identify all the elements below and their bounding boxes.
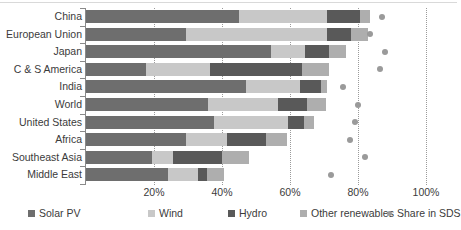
stacked-bar <box>86 116 314 129</box>
bar-segment-solar-pv <box>86 116 214 129</box>
bar-segment-other-renewables <box>207 168 224 181</box>
bar-segment-other-renewables <box>304 116 314 129</box>
bar-segment-wind <box>208 98 278 111</box>
bar-segment-solar-pv <box>86 45 271 58</box>
bar-segment-solar-pv <box>86 80 246 93</box>
stacked-bar <box>86 28 368 41</box>
bar-row <box>86 43 426 61</box>
stacked-bar <box>86 133 287 146</box>
legend-item-solar-pv[interactable]: Solar PV <box>28 207 80 219</box>
legend-swatch-icon <box>28 210 35 217</box>
bar-segment-solar-pv <box>86 28 186 41</box>
y-axis-label-middle-east: Middle East <box>0 168 82 181</box>
legend-label: Wind <box>159 207 183 219</box>
top-divider <box>0 2 457 3</box>
legend-item-hydro[interactable]: Hydro <box>228 207 267 219</box>
bar-segment-wind <box>152 151 172 164</box>
bar-segment-hydro <box>305 45 329 58</box>
stacked-bar <box>86 45 346 58</box>
bar-row <box>86 131 426 149</box>
bar-segment-wind <box>186 133 227 146</box>
bar-segment-wind <box>146 63 211 76</box>
bar-segment-hydro <box>227 133 266 146</box>
bar-segment-solar-pv <box>86 10 239 23</box>
legend-swatch-icon <box>228 210 235 217</box>
x-axis-label-60pct: 60% <box>279 186 300 198</box>
y-axis-label-world: World <box>0 98 82 111</box>
bar-segment-wind <box>239 10 327 23</box>
bar-segment-other-renewables <box>321 80 328 93</box>
stacked-bar <box>86 98 326 111</box>
bar-segment-hydro <box>173 151 222 164</box>
x-axis-label-20pct: 20% <box>143 186 164 198</box>
plot-area <box>86 8 426 184</box>
x-axis-label-40pct: 40% <box>211 186 232 198</box>
bar-segment-solar-pv <box>86 133 186 146</box>
y-axis-label-c-s-america: C & S America <box>0 63 82 76</box>
bar-row <box>86 114 426 132</box>
bar-segment-wind <box>214 116 289 129</box>
bar-row <box>86 166 426 184</box>
bar-segment-hydro <box>278 98 307 111</box>
stacked-bar <box>86 168 224 181</box>
y-axis-label-european-union: European Union <box>0 28 82 41</box>
share-in-sds-marker <box>367 31 373 37</box>
y-axis-label-japan: Japan <box>0 45 82 58</box>
bar-segment-solar-pv <box>86 151 152 164</box>
bar-segment-hydro <box>300 80 320 93</box>
bar-segment-wind <box>246 80 300 93</box>
stacked-bar <box>86 80 327 93</box>
bar-segment-other-renewables <box>266 133 286 146</box>
bar-segment-other-renewables <box>222 151 249 164</box>
bar-row <box>86 26 426 44</box>
share-in-sds-marker <box>328 172 334 178</box>
share-in-sds-marker <box>379 14 385 20</box>
bar-segment-wind <box>271 45 305 58</box>
y-axis-category-labels: ChinaEuropean UnionJapanC & S AmericaInd… <box>0 8 82 185</box>
legend-item-wind[interactable]: Wind <box>148 207 183 219</box>
bar-segment-hydro <box>288 116 303 129</box>
legend-item-share-in-sds[interactable]: Share in SDS <box>386 207 461 219</box>
y-axis-label-africa: Africa <box>0 133 82 146</box>
bar-segment-hydro <box>198 168 207 181</box>
stacked-bar <box>86 10 370 23</box>
bar-row <box>86 96 426 114</box>
bar-segment-other-renewables <box>351 28 368 41</box>
y-axis-label-china: China <box>0 10 82 23</box>
bar-segment-other-renewables <box>307 98 326 111</box>
stacked-bar <box>86 151 249 164</box>
legend-dot-marker-icon <box>387 211 392 216</box>
share-in-sds-marker <box>382 49 388 55</box>
bar-row <box>86 78 426 96</box>
legend-label: Other renewables <box>311 207 394 219</box>
legend-item-other-renewables[interactable]: Other renewables <box>300 207 394 219</box>
bar-segment-hydro <box>210 63 302 76</box>
y-axis-label-southeast-asia: Southeast Asia <box>0 151 82 164</box>
share-in-sds-marker <box>362 154 368 160</box>
bar-segment-other-renewables <box>360 10 370 23</box>
bar-segment-hydro <box>327 10 359 23</box>
bar-segment-solar-pv <box>86 168 168 181</box>
y-axis-label-india: India <box>0 80 82 93</box>
x-axis-label-100pct: 100% <box>413 186 440 198</box>
bar-segment-hydro <box>327 28 351 41</box>
legend-label: Hydro <box>239 207 267 219</box>
bar-segment-other-renewables <box>329 45 346 58</box>
legend-label: Share in SDS <box>397 207 461 219</box>
bar-segment-solar-pv <box>86 98 208 111</box>
bar-row <box>86 149 426 167</box>
bar-row <box>86 61 426 79</box>
legend-label: Solar PV <box>39 207 80 219</box>
bar-segment-wind <box>186 28 327 41</box>
gridline-100pct <box>426 8 427 185</box>
share-in-sds-marker <box>340 84 346 90</box>
x-axis-tick-labels: 20%40%60%80%100% <box>0 186 457 202</box>
y-axis-label-united-states: United States <box>0 116 82 129</box>
legend-swatch-icon <box>300 210 307 217</box>
bar-row <box>86 8 426 26</box>
share-in-sds-marker <box>352 119 358 125</box>
bar-segment-wind <box>168 168 199 181</box>
bar-segment-solar-pv <box>86 63 146 76</box>
share-in-sds-marker <box>355 102 361 108</box>
